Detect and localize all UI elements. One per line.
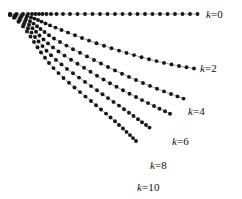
data-point <box>102 78 106 82</box>
data-point <box>176 94 180 98</box>
data-point <box>125 130 129 134</box>
data-point <box>140 120 144 124</box>
data-point <box>102 44 106 48</box>
data-point <box>115 85 119 89</box>
data-point <box>162 61 166 65</box>
data-point <box>29 35 33 39</box>
data-point <box>109 116 113 120</box>
data-point <box>128 12 132 16</box>
data-point <box>76 12 80 16</box>
data-point <box>106 12 110 16</box>
data-point <box>151 12 155 16</box>
data-point <box>41 44 45 48</box>
data-point <box>177 64 181 68</box>
data-point <box>73 86 77 90</box>
data-point <box>66 31 70 35</box>
data-point <box>51 45 55 49</box>
data-point <box>27 23 31 27</box>
data-point <box>30 31 34 35</box>
data-point <box>110 46 114 50</box>
data-point <box>45 49 49 53</box>
data-point <box>121 88 125 92</box>
data-point <box>52 37 56 41</box>
data-point <box>108 81 112 85</box>
data-point <box>29 15 33 19</box>
label-value: =8 <box>155 159 167 171</box>
data-point <box>39 51 43 55</box>
data-point <box>28 19 32 23</box>
data-point <box>192 66 196 70</box>
data-point <box>173 12 177 16</box>
data-point <box>17 20 21 24</box>
data-point <box>134 95 138 99</box>
data-point <box>106 65 110 69</box>
data-point <box>21 24 25 28</box>
data-point <box>36 18 40 22</box>
data-point <box>182 97 186 101</box>
data-point <box>60 62 64 66</box>
data-point <box>34 30 38 34</box>
data-point <box>94 103 98 107</box>
data-point <box>57 50 61 54</box>
data-point <box>155 59 159 63</box>
data-point <box>80 36 84 40</box>
data-point <box>117 123 121 127</box>
data-point <box>158 107 162 111</box>
data-point <box>148 84 152 88</box>
data-point <box>58 40 62 44</box>
data-point <box>140 98 144 102</box>
data-point <box>127 75 131 79</box>
data-point <box>48 23 52 27</box>
data-point <box>38 34 42 38</box>
data-point <box>170 63 174 67</box>
data-point <box>127 111 131 115</box>
data-point <box>39 27 43 31</box>
data-point <box>120 72 124 76</box>
data-point <box>42 37 46 41</box>
label-value: =2 <box>205 62 217 74</box>
data-point <box>113 119 117 123</box>
data-point <box>8 13 12 17</box>
data-point <box>78 90 82 94</box>
label-value: =6 <box>177 135 189 147</box>
data-point <box>121 12 125 16</box>
data-point <box>54 58 58 62</box>
plot-background <box>0 0 242 199</box>
data-point <box>65 44 69 48</box>
data-point <box>136 117 140 121</box>
label-value: =10 <box>142 181 160 193</box>
data-point <box>32 22 36 26</box>
data-point <box>89 84 93 88</box>
curve-label-k2: k=2 <box>200 63 217 74</box>
data-point <box>140 55 144 59</box>
data-point <box>99 108 103 112</box>
data-point <box>92 58 96 62</box>
data-point <box>12 16 16 20</box>
data-point <box>87 39 91 43</box>
data-point <box>99 62 103 66</box>
curve-label-k10: k=10 <box>137 182 160 193</box>
data-point <box>89 99 93 103</box>
data-point <box>106 96 110 100</box>
data-point <box>49 12 53 16</box>
data-point <box>25 29 29 33</box>
data-point <box>49 53 53 57</box>
data-point <box>104 112 108 116</box>
data-point <box>82 66 86 70</box>
data-point <box>162 89 166 93</box>
data-point <box>43 56 47 60</box>
data-point <box>44 21 48 25</box>
data-point <box>85 54 89 58</box>
data-point <box>37 40 41 44</box>
data-point <box>30 12 34 16</box>
data-point <box>132 114 136 118</box>
data-point <box>60 28 64 32</box>
curve-label-k4: k=4 <box>188 106 205 117</box>
data-point <box>147 57 151 61</box>
data-point <box>54 26 58 30</box>
data-point <box>152 104 156 108</box>
data-point <box>98 12 102 16</box>
data-point <box>71 47 75 51</box>
data-point <box>95 41 99 45</box>
data-point <box>122 107 126 111</box>
